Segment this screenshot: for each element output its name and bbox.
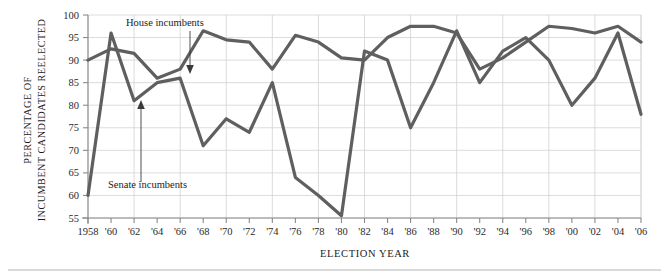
y-tick-label: 80 (69, 100, 80, 111)
incumbent-reelection-chart: 100959085807570656055 1958'60'62'64'66'6… (0, 0, 669, 275)
y-tick-label: 100 (63, 10, 79, 21)
x-tick-label: '82 (358, 226, 370, 237)
senate-annotation-arrow (137, 100, 145, 182)
y-axis-title-line1: PERCENTAGE OF (22, 76, 33, 163)
x-axis-title: ELECTION YEAR (320, 248, 410, 259)
senate-incumbents-annotation: Senate incumbents (108, 179, 187, 190)
x-tick-label: '80 (335, 226, 347, 237)
house-incumbents-label: House incumbents (126, 17, 204, 28)
x-tick-label: '62 (128, 226, 140, 237)
x-tick-label: '68 (197, 226, 209, 237)
x-tick-label: '04 (612, 226, 625, 237)
x-tick-label: '78 (312, 226, 324, 237)
house-incumbents-annotation: House incumbents (126, 17, 204, 28)
x-tick-label: '66 (174, 226, 186, 237)
senate-incumbents-label: Senate incumbents (108, 179, 187, 190)
y-axis (83, 15, 641, 224)
x-tick-label: '88 (427, 226, 439, 237)
y-tick-label: 70 (69, 145, 80, 156)
x-tick-label: '98 (543, 226, 555, 237)
x-tick-label: '76 (289, 226, 301, 237)
y-tick-label: 65 (69, 167, 80, 178)
y-tick-label: 85 (69, 77, 80, 88)
y-tick-label: 90 (69, 55, 80, 66)
chart-figure: 100959085807570656055 1958'60'62'64'66'6… (0, 0, 669, 275)
y-axis-title: PERCENTAGE OF INCUMBENT CANDIDATES REELE… (22, 19, 47, 222)
y-tick-label: 55 (69, 213, 80, 224)
x-tick-label: '86 (404, 226, 416, 237)
x-tick-label: '74 (266, 226, 279, 237)
x-tick-label: '06 (635, 226, 647, 237)
x-tick-label: '60 (105, 226, 117, 237)
arrow-head-up-icon (137, 100, 145, 109)
x-tick-label: '84 (381, 226, 394, 237)
x-tick-label: '64 (151, 226, 164, 237)
x-tick-label: 1958 (78, 226, 99, 237)
x-tick-label: '02 (589, 226, 601, 237)
x-tick-label: '00 (566, 226, 578, 237)
x-tick-label: '96 (520, 226, 532, 237)
x-tick-label: '72 (243, 226, 255, 237)
x-tick-label: '92 (474, 226, 486, 237)
y-tick-label: 60 (69, 190, 80, 201)
y-tick-label: 75 (69, 122, 80, 133)
arrow-head-down-icon (186, 65, 194, 74)
x-tick-label: '90 (450, 226, 462, 237)
x-tick-label: '94 (497, 226, 510, 237)
y-tick-label: 95 (69, 32, 80, 43)
x-tick-labels: 1958'60'62'64'66'68'70'72'74'76'78'80'82… (78, 226, 648, 237)
x-tick-label: '70 (220, 226, 232, 237)
y-axis-title-line2: INCUMBENT CANDIDATES REELECTED (36, 19, 47, 222)
y-tick-labels: 100959085807570656055 (63, 10, 79, 224)
x-axis (82, 218, 641, 223)
